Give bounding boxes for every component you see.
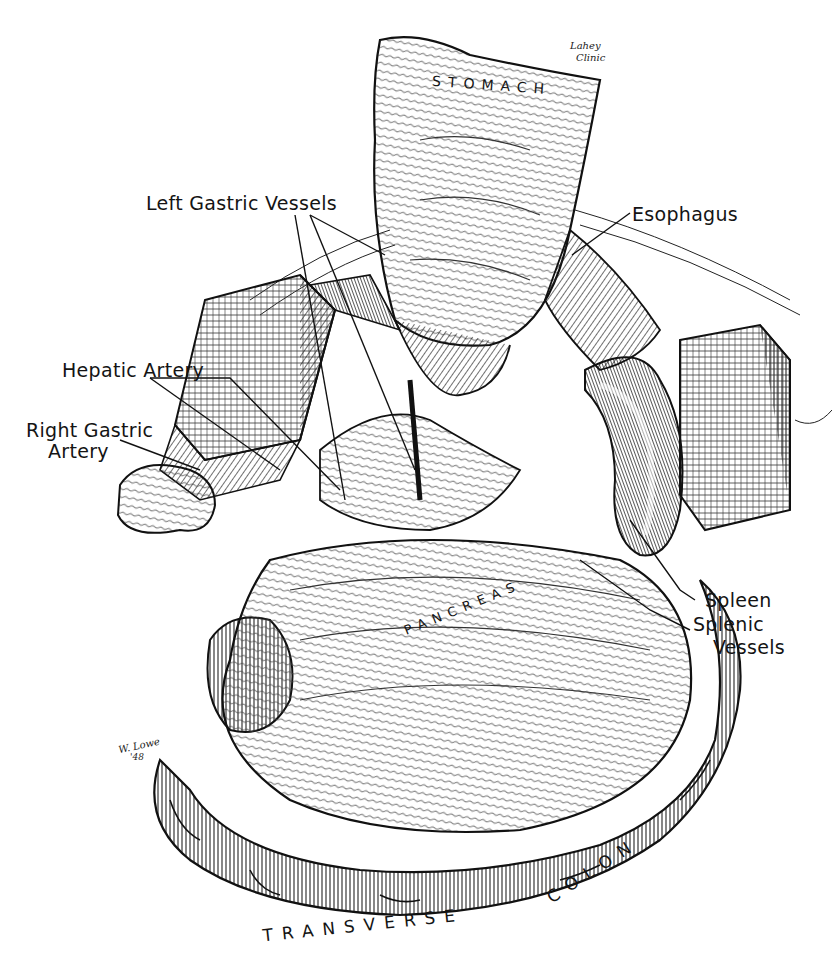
label-splenic-vessels-line1: Splenic [693, 614, 764, 634]
label-right-gastric-artery-line1: Right Gastric [26, 420, 153, 440]
central-tissue [320, 380, 520, 530]
credit-line2: Clinic [576, 52, 605, 63]
credit-line1: Lahey [570, 40, 601, 51]
illustration-canvas: Left Gastric Vessels Esophagus Hepatic A… [0, 0, 832, 959]
pancreas-bowl [223, 540, 692, 832]
label-splenic-vessels-line2: Vessels [713, 637, 785, 657]
label-right-gastric-artery-line2: Artery [48, 441, 109, 461]
liver-edge [118, 465, 215, 533]
anatomy-drawing [0, 0, 832, 959]
right-retractor [680, 325, 790, 530]
artist-signature-line2: '48 [130, 752, 144, 762]
label-spleen: Spleen [705, 590, 772, 610]
label-esophagus: Esophagus [632, 204, 738, 224]
label-hepatic-artery: Hepatic Artery [62, 360, 204, 380]
label-left-gastric-vessels: Left Gastric Vessels [146, 193, 337, 213]
esophagus-region [545, 230, 660, 370]
